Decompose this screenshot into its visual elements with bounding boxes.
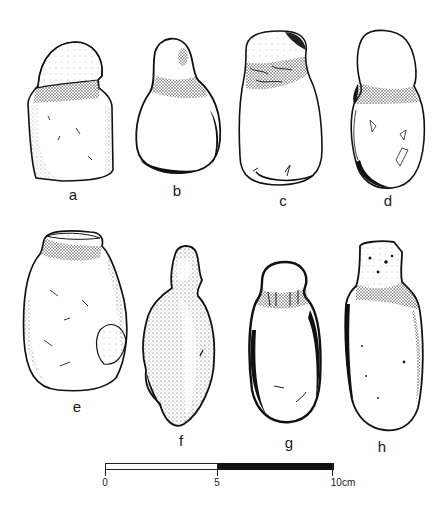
scale-tick-5 <box>217 463 218 476</box>
artifact-f-drawing <box>143 246 214 426</box>
scale-label-10cm: 10cm <box>331 478 355 488</box>
artifact-c-drawing <box>239 31 322 185</box>
artifact-a-drawing <box>28 42 113 181</box>
artifact-label-a: a <box>69 187 77 202</box>
scale-tick-10 <box>332 463 333 476</box>
artifact-d-drawing <box>351 30 424 188</box>
artifact-h-drawing <box>345 241 423 430</box>
artifact-label-h: h <box>378 439 386 454</box>
scale-label-5: 5 <box>214 478 220 488</box>
artifact-e-drawing <box>24 231 127 391</box>
artifact-label-d: d <box>384 193 392 208</box>
scale-segment-black <box>218 463 334 470</box>
artifact-label-g: g <box>285 435 293 450</box>
scale-label-0: 0 <box>102 478 108 488</box>
artifact-label-c: c <box>279 193 287 208</box>
scale-segment-white <box>105 463 219 470</box>
artifact-label-f: f <box>179 433 183 448</box>
artifact-b-drawing <box>136 39 220 173</box>
artifact-label-e: e <box>73 399 81 414</box>
artifact-label-b: b <box>173 183 181 198</box>
scale-tick-0 <box>105 463 106 476</box>
artifact-g-drawing <box>249 262 320 422</box>
